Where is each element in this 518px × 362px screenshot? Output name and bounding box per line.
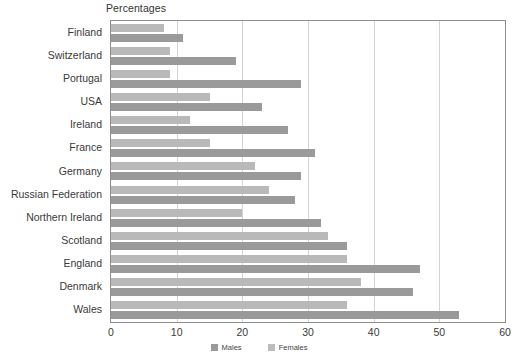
bar-females-finland (111, 34, 183, 42)
y-axis-label-england: England (63, 257, 102, 269)
y-axis-label-ireland: Ireland (70, 118, 102, 130)
gridline (505, 21, 506, 322)
chart-title: Percentages (106, 2, 166, 14)
bar-females-russian-federation (111, 196, 295, 204)
legend-swatch-icon (268, 344, 275, 351)
bar-males-finland (111, 24, 164, 32)
bar-group (111, 90, 505, 113)
y-axis-label-germany: Germany (59, 165, 102, 177)
x-tick-0: 0 (108, 326, 114, 338)
bar-females-portugal (111, 80, 301, 88)
y-axis-label-wales: Wales (73, 303, 102, 315)
y-axis-label-denmark: Denmark (59, 280, 102, 292)
bar-rows (111, 21, 505, 322)
bar-males-scotland (111, 232, 328, 240)
percentages-bar-chart: Percentages FinlandSwitzerlandPortugalUS… (0, 0, 518, 362)
bar-females-ireland (111, 126, 288, 134)
bar-group (111, 67, 505, 90)
y-axis-label-usa: USA (80, 95, 102, 107)
bar-males-denmark (111, 278, 361, 286)
bar-group (111, 183, 505, 206)
x-axis-tick-labels: 0102030405060 (110, 326, 506, 342)
bar-group (111, 44, 505, 67)
bar-males-france (111, 139, 210, 147)
bar-females-denmark (111, 288, 413, 296)
legend-item-females[interactable]: Females (268, 343, 308, 352)
bar-group (111, 160, 505, 183)
bar-group (111, 299, 505, 322)
bar-males-northern-ireland (111, 209, 242, 217)
x-tick-30: 30 (302, 326, 314, 338)
bar-males-russian-federation (111, 186, 269, 194)
x-tick-20: 20 (236, 326, 248, 338)
bar-females-northern-ireland (111, 219, 321, 227)
bar-females-usa (111, 103, 262, 111)
legend-swatch-icon (211, 344, 218, 351)
x-tick-40: 40 (368, 326, 380, 338)
bar-group (111, 206, 505, 229)
bar-males-portugal (111, 70, 170, 78)
bar-males-switzerland (111, 47, 170, 55)
bar-females-germany (111, 172, 301, 180)
chart-legend: MalesFemales (0, 343, 518, 352)
bar-males-wales (111, 301, 347, 309)
bar-females-wales (111, 311, 459, 319)
legend-item-males[interactable]: Males (211, 343, 242, 352)
plot-area (110, 20, 506, 323)
bar-group (111, 137, 505, 160)
bar-group (111, 276, 505, 299)
y-axis-label-portugal: Portugal (63, 72, 102, 84)
bar-females-france (111, 149, 315, 157)
legend-label: Females (279, 343, 308, 352)
y-axis-label-france: France (69, 141, 102, 153)
bar-group (111, 114, 505, 137)
bar-females-scotland (111, 242, 347, 250)
bar-group (111, 21, 505, 44)
legend-label: Males (222, 343, 242, 352)
bar-males-england (111, 255, 347, 263)
bar-group (111, 253, 505, 276)
bar-group (111, 229, 505, 252)
y-axis-label-finland: Finland (68, 26, 102, 38)
x-tick-10: 10 (171, 326, 183, 338)
x-tick-50: 50 (433, 326, 445, 338)
y-axis-label-northern-ireland: Northern Ireland (26, 211, 102, 223)
bar-males-usa (111, 93, 210, 101)
y-axis-label-switzerland: Switzerland (48, 49, 102, 61)
y-axis-category-labels: FinlandSwitzerlandPortugalUSAIrelandFran… (0, 20, 106, 323)
bar-males-ireland (111, 116, 190, 124)
bar-females-switzerland (111, 57, 236, 65)
y-axis-label-scotland: Scotland (61, 234, 102, 246)
x-tick-60: 60 (499, 326, 511, 338)
bar-females-england (111, 265, 420, 273)
y-axis-label-russian-federation: Russian Federation (11, 188, 102, 200)
bar-males-germany (111, 162, 255, 170)
